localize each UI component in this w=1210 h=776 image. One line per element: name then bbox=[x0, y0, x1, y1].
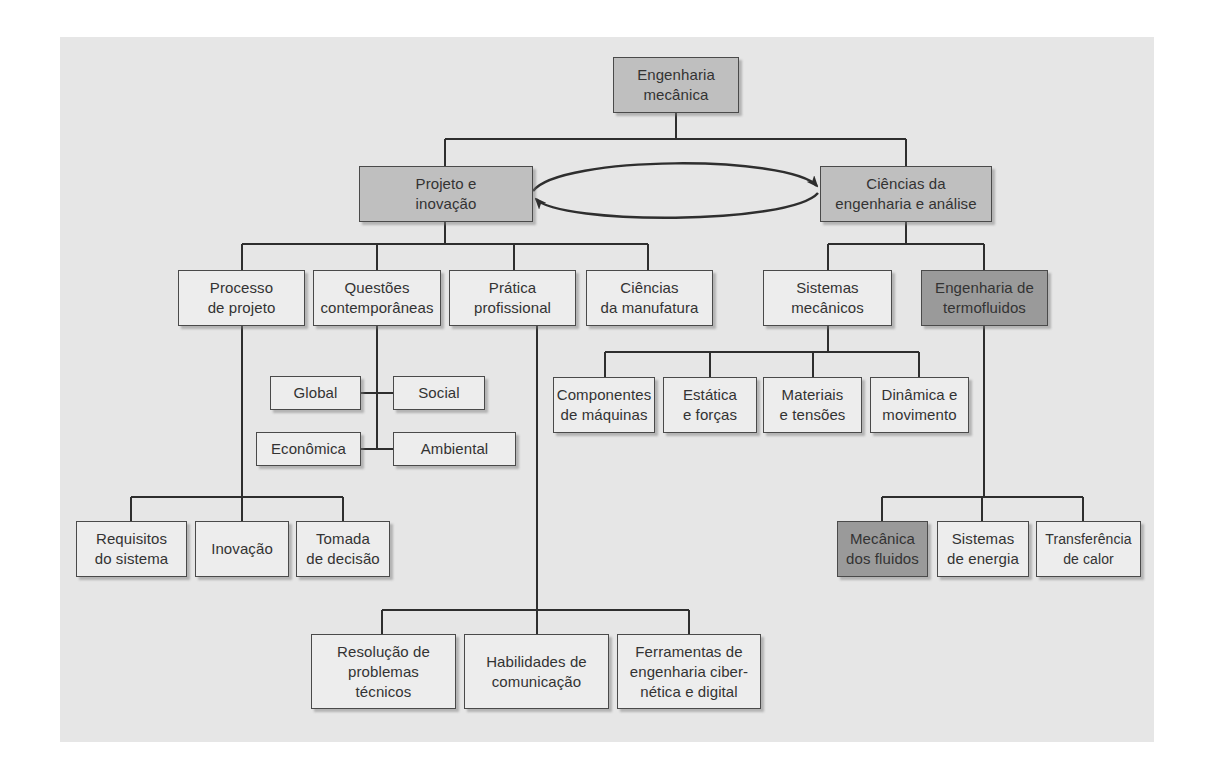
node-sistemas-mecanicos: Sistemas mecânicos bbox=[763, 270, 892, 326]
node-dinamica-e-movimento: Dinâmica e movimento bbox=[870, 377, 969, 433]
node-componentes-de-maquinas: Componentes de máquinas bbox=[553, 377, 655, 433]
node-transferencia-de-calor: Transferência de calor bbox=[1036, 521, 1141, 577]
node-habilidades-de-comunicacao: Habilidades de comunicação bbox=[464, 634, 609, 709]
node-economica: Econômica bbox=[256, 432, 361, 466]
node-requisitos-do-sistema: Requisitos do sistema bbox=[76, 521, 187, 577]
node-mecanica-dos-fluidos: Mecânica dos fluidos bbox=[837, 521, 928, 577]
node-estatica-e-forcas: Estática e forças bbox=[663, 377, 757, 433]
node-processo-de-projeto: Processo de projeto bbox=[178, 270, 305, 326]
node-resolucao-de-problemas: Resolução de problemas técnicos bbox=[311, 634, 456, 709]
node-engenharia-mecanica: Engenharia mecânica bbox=[613, 57, 739, 113]
node-global: Global bbox=[270, 376, 361, 410]
node-social: Social bbox=[393, 376, 485, 410]
node-projeto-e-inovacao: Projeto e inovação bbox=[359, 166, 533, 222]
node-engenharia-de-termofluidos: Engenharia de termofluidos bbox=[921, 270, 1048, 326]
node-ciencias-da-engenharia: Ciências da engenharia e análise bbox=[820, 166, 992, 222]
node-ambiental: Ambiental bbox=[393, 432, 516, 466]
node-ferramentas-de-engenharia: Ferramentas de engenharia ciber- nética … bbox=[617, 634, 761, 709]
node-pratica-profissional: Prática profissional bbox=[449, 270, 576, 326]
node-materiais-e-tensoes: Materiais e tensões bbox=[763, 377, 862, 433]
node-ciencias-da-manufatura: Ciências da manufatura bbox=[586, 270, 713, 326]
node-inovacao: Inovação bbox=[195, 521, 289, 577]
node-tomada-de-decisao: Tomada de decisão bbox=[296, 521, 390, 577]
node-sistemas-de-energia: Sistemas de energia bbox=[937, 521, 1029, 577]
node-questoes-contemporaneas: Questões contemporâneas bbox=[313, 270, 441, 326]
